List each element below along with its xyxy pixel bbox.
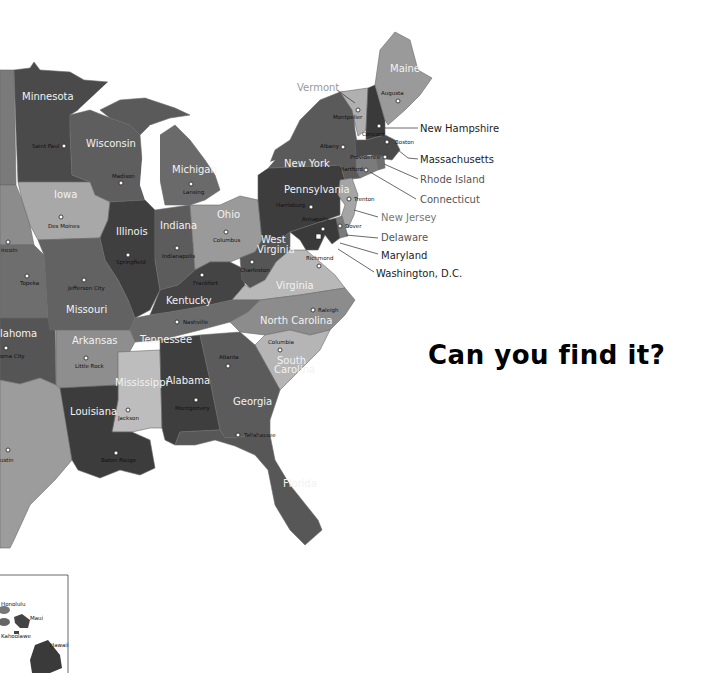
label-west-virginia: Virginia <box>257 244 295 255</box>
label-lansing: Lansing <box>183 189 204 196</box>
label-georgia: Georgia <box>233 396 272 407</box>
label-frankfort: Frankfort <box>193 280 219 286</box>
label-harrisburg: Harrisburg <box>276 202 305 209</box>
label-jackson: Jackson <box>117 415 139 422</box>
label-ohio: Ohio <box>217 209 240 220</box>
state-dc <box>316 234 321 239</box>
label-little-rock: Little Rock <box>75 363 105 369</box>
label-new-york: New York <box>284 158 330 169</box>
callout-dc: Washington, D.C. <box>376 268 462 279</box>
label-concord: Concord <box>362 131 385 137</box>
label-atlanta: Atlanta <box>219 354 239 360</box>
state-maine <box>375 32 432 125</box>
label-mississippi: Mississippi <box>115 377 168 388</box>
label-des-moines: Des Moines <box>48 223 80 229</box>
label-illinois: Illinois <box>116 226 148 237</box>
label-austin: ustin <box>0 457 14 463</box>
label-springfield: Springfield <box>116 259 146 266</box>
label-louisiana: Louisiana <box>70 406 117 417</box>
label-indiana: Indiana <box>160 220 197 231</box>
label-missouri: Missouri <box>66 304 107 315</box>
label-dover: Dover <box>345 223 362 229</box>
label-pennsylvania: Pennsylvania <box>284 184 350 195</box>
callout-vermont: Vermont <box>297 82 339 93</box>
callout-maryland: Maryland <box>381 250 427 261</box>
label-maine: Maine <box>390 63 420 74</box>
label-charleston: Charleston <box>240 267 270 273</box>
callout-new-hampshire: New Hampshire <box>420 123 499 134</box>
label-okc: oma City <box>0 353 25 360</box>
label-columbus: Columbus <box>213 237 241 243</box>
label-montpelier: Montpelier <box>333 114 363 121</box>
label-hartford: Hartford <box>340 166 363 172</box>
label-oklahoma: lahoma <box>0 328 37 339</box>
label-columbia: Columbia <box>268 339 294 345</box>
label-raleigh: Raleigh <box>318 307 339 314</box>
label-alabama: Alabama <box>166 375 210 386</box>
label-indianapolis: Indianapolis <box>162 253 195 260</box>
label-topeka: Topeka <box>19 280 39 287</box>
label-madison: Madison <box>112 173 135 179</box>
label-north-carolina: North Carolina <box>260 315 332 326</box>
lake-michigan <box>140 125 160 200</box>
callout-new-jersey: New Jersey <box>381 212 437 223</box>
label-arkansas: Arkansas <box>72 335 118 346</box>
state-texas <box>0 378 72 548</box>
label-boston: Boston <box>395 139 415 145</box>
label-providence: Providence <box>350 154 381 160</box>
label-kentucky: Kentucky <box>166 295 212 306</box>
callout-delaware: Delaware <box>381 232 428 243</box>
label-tallahassee: Tallahassee <box>243 432 276 438</box>
headline-text: Can you find it? <box>428 340 665 370</box>
label-saint-paul: Saint Paul <box>32 143 60 149</box>
label-nashville: Nashville <box>183 319 209 325</box>
label-tennessee: Tennessee <box>139 334 192 345</box>
label-lincoln: incoln <box>1 247 18 253</box>
label-augusta: Augusta <box>381 90 404 97</box>
label-baton-rouge: Baton Rouge <box>101 457 137 464</box>
label-minnesota: Minnesota <box>22 91 74 102</box>
label-virginia: Virginia <box>276 280 314 291</box>
hawaii-inset: Honolulu Maui Kahoolawe Hawaii <box>0 575 69 673</box>
label-carolina: Carolina <box>274 364 315 375</box>
label-richmond: Richmond <box>306 255 334 261</box>
state-dakotas-partial <box>0 70 16 185</box>
label-honolulu: Honolulu <box>1 601 25 607</box>
label-hawaii: Hawaii <box>50 642 69 648</box>
callout-massachusetts: Massachusetts <box>420 154 494 165</box>
label-montgomery: Montgomery <box>175 405 211 412</box>
callout-connecticut: Connecticut <box>420 194 480 205</box>
label-annapolis: Annapolis <box>302 216 329 223</box>
label-maui: Maui <box>30 615 44 621</box>
label-jefferson-city: Jefferson City <box>67 285 105 292</box>
label-michigan: Michigan <box>172 164 217 175</box>
label-albany: Albany <box>320 143 340 150</box>
label-florida: Florida <box>283 478 317 489</box>
us-eastern-map: Minnesota Saint Paul Wisconsin Madison M… <box>0 0 708 673</box>
label-kahoolawe: Kahoolawe <box>1 633 31 639</box>
callout-rhode-island: Rhode Island <box>420 174 485 185</box>
label-iowa: Iowa <box>54 189 77 200</box>
label-wisconsin: Wisconsin <box>86 138 136 149</box>
label-trenton: Trenton <box>353 196 375 202</box>
